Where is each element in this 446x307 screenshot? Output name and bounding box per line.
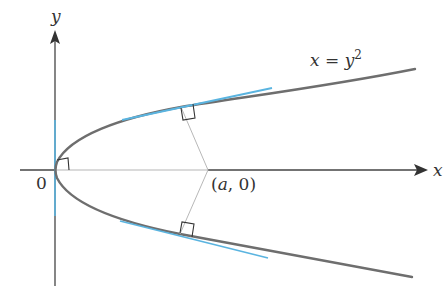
eq-sign: = [320,50,345,70]
right-angle-mark-vertex [57,158,69,170]
point-label-var: a [218,174,228,194]
parabola-curve [56,69,416,277]
point-a0-label: (a, 0) [211,176,256,193]
point-label-open: ( [211,174,218,194]
y-axis-label: y [51,8,61,25]
origin-label: 0 [36,175,47,192]
tangent-line-upper [122,88,272,120]
point-label-rest: , 0) [228,174,256,194]
eq-base: y [345,50,355,70]
x-axis-label: x [433,162,443,179]
curve-equation-label: x = y2 [310,49,362,69]
eq-lhs: x [310,50,320,70]
diagram-canvas: y x 0 (a, 0) x = y2 [0,0,446,307]
diagram-svg [0,0,446,307]
eq-exponent: 2 [354,48,362,62]
